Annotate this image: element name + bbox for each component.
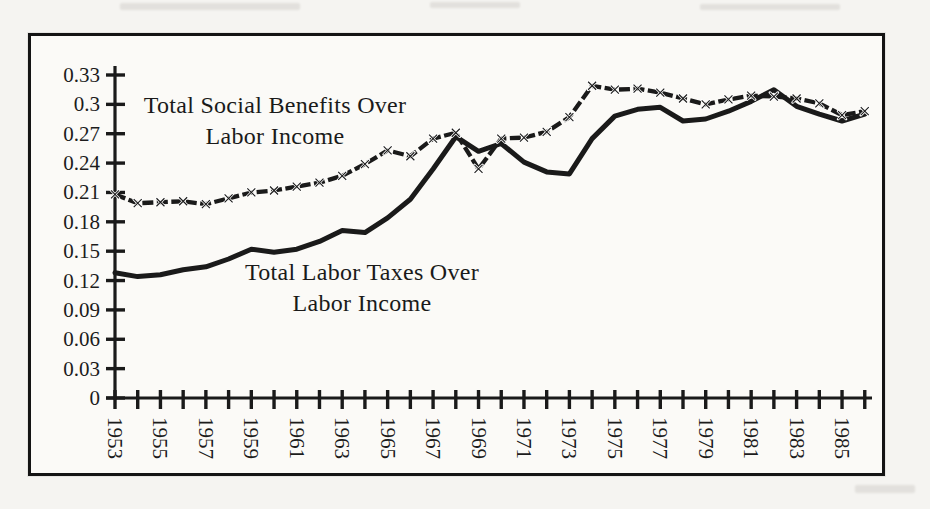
y-tick-label: 0 <box>90 386 101 410</box>
y-tick-label: 0.33 <box>63 63 100 87</box>
x-tick-label: 1965 <box>376 417 400 459</box>
x-tick-label: 1969 <box>467 417 491 459</box>
x-tick-label: 1957 <box>194 417 218 459</box>
x-tick-label: 1971 <box>512 417 536 459</box>
y-tick-label: 0.09 <box>63 298 100 322</box>
x-tick-label: 1973 <box>557 417 581 459</box>
scanned-page: 00.030.060.090.120.150.180.210.240.270.3… <box>0 0 930 509</box>
y-tick-label: 0.21 <box>63 180 100 204</box>
y-tick-label: 0.06 <box>63 327 100 351</box>
x-tick-label: 1961 <box>285 417 309 459</box>
y-tick-label: 0.03 <box>63 357 100 381</box>
x-ticks: 1953195519571959196119631965196719691971… <box>103 390 865 459</box>
x-tick-label: 1955 <box>148 417 172 459</box>
x-tick-label: 1967 <box>421 417 445 459</box>
x-tick-label: 1981 <box>739 417 763 459</box>
x-tick-label: 1983 <box>785 417 809 459</box>
y-tick-label: 0.12 <box>63 269 100 293</box>
x-tick-label: 1959 <box>239 417 263 459</box>
y-tick-label: 0.18 <box>63 210 100 234</box>
taxes-series-label: Total Labor Taxes Over Labor Income <box>212 257 512 319</box>
y-tick-label: 0.3 <box>74 92 100 116</box>
x-tick-label: 1953 <box>103 417 127 459</box>
y-tick-label: 0.24 <box>63 151 100 175</box>
y-tick-label: 0.27 <box>63 122 100 146</box>
benefits-series-label: Total Social Benefits Over Labor Income <box>120 90 430 152</box>
x-tick-label: 1975 <box>603 417 627 459</box>
x-tick-label: 1977 <box>648 417 672 459</box>
x-tick-label: 1985 <box>830 417 854 459</box>
x-tick-label: 1979 <box>694 417 718 459</box>
chart-canvas: 00.030.060.090.120.150.180.210.240.270.3… <box>0 0 930 509</box>
y-tick-label: 0.15 <box>63 239 100 263</box>
x-tick-label: 1963 <box>330 417 354 459</box>
